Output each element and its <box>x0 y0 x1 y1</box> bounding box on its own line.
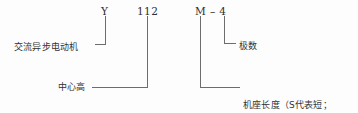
callout-center-height: 中心高 <box>58 80 86 93</box>
callout-poles: 极数 <box>239 39 257 52</box>
leader-line-poles <box>225 16 237 44</box>
leader-line-series-letter <box>95 16 106 45</box>
motor-model-code-diagram: Y 112 M – 4 交流异步电动机 极数 中心高 机座长度（S代表短； M代… <box>0 0 358 113</box>
code-center-height-number: 112 <box>137 5 158 17</box>
leader-line-center-height <box>92 16 148 88</box>
leader-line-frame-length <box>201 16 241 88</box>
code-frame-length-and-poles: M – 4 <box>195 5 226 17</box>
callout-motor-type: 交流异步电动机 <box>14 40 78 53</box>
callout-frame-length: 机座长度（S代表短； M代表中；L代表长） <box>243 74 332 113</box>
code-series-letter: Y <box>101 5 108 17</box>
callout-frame-length-line-1: 机座长度（S代表短； <box>243 99 332 112</box>
